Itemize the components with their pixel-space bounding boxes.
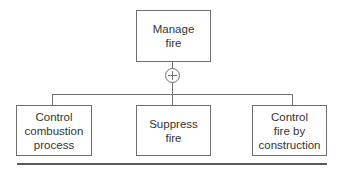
bottom-divider: [17, 163, 327, 165]
child-node-control-combustion-process: Control combustion process: [16, 105, 92, 156]
child-node-label: Suppress fire: [149, 117, 198, 145]
connector-drop-middle: [172, 94, 173, 105]
circle-plus-icon: [165, 68, 180, 83]
child-node-label: Control combustion process: [25, 110, 84, 152]
root-node-label: Manage fire: [153, 22, 195, 50]
connector-drop-left: [52, 94, 53, 105]
child-node-suppress-fire: Suppress fire: [136, 105, 211, 156]
connector-drop-right: [292, 94, 293, 105]
child-node-control-fire-by-construction: Control fire by construction: [252, 105, 327, 156]
connector-gate-to-bus: [172, 83, 173, 94]
root-node-manage-fire: Manage fire: [136, 10, 211, 62]
child-node-label: Control fire by construction: [258, 110, 320, 152]
